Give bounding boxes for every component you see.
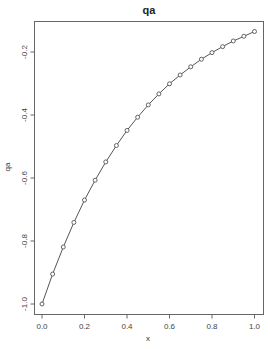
line-chart: qa 0.00.20.40.60.81.0 -1.0-0.8-0.6-0.4-0… [0,0,271,349]
y-tick-label: -0.6 [20,171,29,185]
series-markers-qa [40,30,257,306]
data-point [221,45,225,49]
x-tick-label: 0.4 [121,322,133,331]
y-axis: -1.0-0.8-0.6-0.4-0.2 [20,45,35,311]
data-point [231,39,235,43]
data-point [189,65,193,69]
x-tick-label: 0.8 [206,322,218,331]
data-point [83,198,87,202]
data-point [178,73,182,77]
x-tick-label: 0.0 [36,322,48,331]
chart-title: qa [143,4,157,16]
x-tick-label: 0.2 [79,322,91,331]
y-axis-label: qa [3,162,12,171]
data-point [210,51,214,55]
data-point [136,115,140,119]
y-tick-label: -1.0 [20,297,29,311]
y-tick-label: -0.2 [20,45,29,59]
data-point [72,220,76,224]
data-point [93,178,97,182]
data-point [61,245,65,249]
plot-frame [35,22,264,315]
data-point [125,128,129,132]
series-line-qa [42,32,255,305]
data-point [199,57,203,61]
data-point [104,160,108,164]
data-point [51,272,55,276]
x-axis-label: x [146,334,150,343]
x-tick-label: 1.0 [249,322,261,331]
y-tick-label: -0.8 [20,234,29,248]
data-point [146,103,150,107]
data-point [242,34,246,38]
data-point [114,144,118,148]
data-point [40,302,44,306]
y-tick-label: -0.4 [20,108,29,122]
data-point [157,92,161,96]
data-point [253,30,257,34]
x-axis: 0.00.20.40.60.81.0 [36,315,260,331]
data-point [168,82,172,86]
x-tick-label: 0.6 [164,322,176,331]
